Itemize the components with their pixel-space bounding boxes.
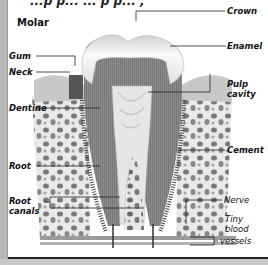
label-root: Root <box>9 161 31 171</box>
cropped-heading: ...p p... ... p p... , <box>30 0 145 8</box>
label-root-canals-line2: canals <box>9 206 40 216</box>
label-gum: Gum <box>9 51 31 61</box>
neck-region <box>69 75 83 99</box>
label-crown: Crown <box>227 6 257 16</box>
label-root-canals-line1: Root <box>9 196 31 206</box>
label-neck: Neck <box>9 67 33 77</box>
label-dentine: Dentine <box>9 103 47 113</box>
diagram-title: Molar <box>17 17 49 28</box>
label-pulp-line2: cavity <box>227 89 256 99</box>
label-vessels-line2: blood <box>225 224 249 234</box>
jawbone-right <box>176 92 232 240</box>
gum-right <box>178 75 232 102</box>
label-nerve: Nerve <box>224 195 249 205</box>
label-pulp-line1: Pulp <box>227 79 248 89</box>
label-enamel: Enamel <box>227 41 262 51</box>
label-cement: Cement <box>227 145 264 155</box>
label-vessels-line1: Tiny <box>225 214 243 224</box>
label-vessels-line3: vessels <box>220 236 251 246</box>
